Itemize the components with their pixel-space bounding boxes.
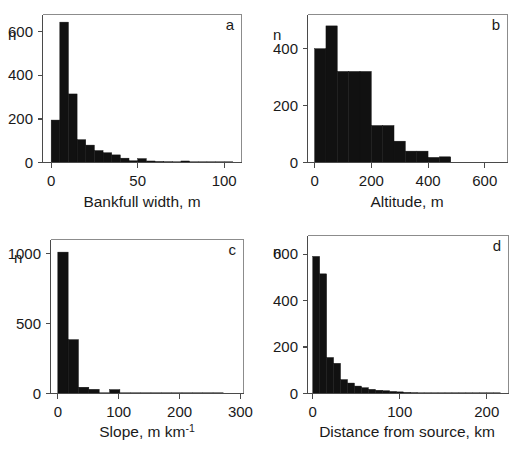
- panel-c-axes: [51, 240, 244, 394]
- y-tick-label: 500: [16, 315, 41, 332]
- y-tick-label: 0: [33, 385, 41, 402]
- histogram-bar: [320, 274, 327, 394]
- y-tick-label: 0: [290, 385, 298, 402]
- y-tick-label: 200: [8, 110, 33, 127]
- histogram-bar: [313, 256, 320, 393]
- y-tick-label: 200: [273, 338, 298, 355]
- panel-b: 0200400 0200400600 n b Altitude, m: [257, 0, 514, 224]
- panel-c-x-axis-title: Slope, m km-1: [99, 422, 195, 440]
- histogram-bar: [112, 155, 121, 163]
- histogram-figure: 0200400600 050100 n a Bankfull width, m …: [0, 0, 514, 449]
- y-tick-label: 1000: [8, 245, 41, 262]
- panel-a-x-ticks: 050100: [47, 163, 237, 190]
- histogram-bar: [360, 71, 371, 162]
- histogram-bar: [94, 151, 103, 163]
- x-tick-label: 600: [472, 172, 497, 189]
- histogram-bar: [334, 363, 341, 393]
- x-tick-label: 0: [47, 172, 55, 189]
- panel-c-frame: [51, 240, 244, 394]
- panel-a-tag: a: [226, 16, 235, 33]
- histogram-bar: [368, 389, 375, 393]
- panel-c-x-ticks: 0100200300: [54, 394, 253, 421]
- histogram-bar: [349, 71, 360, 162]
- histogram-bar: [79, 387, 89, 393]
- panel-a-y-ticks: 0200400600: [8, 23, 43, 171]
- panel-c-tag: c: [229, 241, 237, 258]
- panel-d-x-ticks: 0100200: [309, 394, 500, 421]
- x-tick-label: 50: [129, 172, 146, 189]
- histogram-bar: [138, 159, 147, 163]
- panel-d-y-axis-name: n: [273, 243, 281, 260]
- histogram-bar: [354, 386, 361, 393]
- x-tick-label: 300: [228, 403, 253, 420]
- x-tick-label: 0: [309, 403, 317, 420]
- histogram-bar: [103, 153, 112, 163]
- histogram-bar: [120, 158, 129, 162]
- histogram-bar: [110, 390, 120, 394]
- y-tick-label: 0: [290, 154, 298, 171]
- histogram-bar: [405, 151, 416, 162]
- panel-d-x-axis-title: Distance from source, km: [319, 423, 495, 440]
- panel-d-plot: 0200400600 0100200 n d Distance from sou…: [257, 225, 514, 449]
- panel-b-plot: 0200400 0200400600 n b Altitude, m: [257, 0, 514, 224]
- histogram-bar: [89, 389, 99, 393]
- histogram-bar: [77, 140, 86, 163]
- y-tick-label: 200: [273, 97, 298, 114]
- x-tick-label: 400: [416, 172, 441, 189]
- x-tick-label: 0: [310, 172, 318, 189]
- histogram-bar: [337, 71, 348, 162]
- panel-b-x-axis-title: Altitude, m: [370, 193, 443, 210]
- panel-a-bars: [51, 22, 233, 162]
- histogram-bar: [348, 383, 355, 393]
- histogram-bar: [383, 126, 394, 163]
- panel-b-y-axis-name: n: [273, 26, 281, 43]
- panel-a-y-axis-name: n: [8, 26, 16, 43]
- panel-c-y-ticks: 05001000: [8, 245, 51, 402]
- panel-a-plot: 0200400600 050100 n a Bankfull width, m: [0, 0, 257, 224]
- x-tick-label: 0: [54, 403, 62, 420]
- x-tick-label: 100: [106, 403, 131, 420]
- histogram-bar: [60, 22, 69, 162]
- panel-d-bars: [313, 256, 501, 393]
- histogram-bar: [439, 157, 450, 163]
- histogram-bar: [417, 151, 428, 162]
- panel-a: 0200400600 050100 n a Bankfull width, m: [0, 0, 257, 224]
- panel-c-plot: 05001000 0100200300 n c Slope, m km-1: [0, 225, 257, 449]
- histogram-bar: [394, 141, 405, 162]
- y-tick-label: 400: [8, 66, 33, 83]
- x-tick-label: 200: [167, 403, 192, 420]
- panel-d-y-ticks: 0200400600: [273, 245, 308, 401]
- y-tick-label: 400: [273, 292, 298, 309]
- panel-d: 0200400600 0100200 n d Distance from sou…: [257, 225, 514, 449]
- x-tick-label: 100: [212, 172, 237, 189]
- histogram-bar: [68, 340, 78, 394]
- panel-d-tag: d: [493, 237, 501, 254]
- histogram-bar: [326, 26, 337, 163]
- panel-b-bars: [315, 26, 451, 163]
- panel-c-x-axis-title-main: Slope, m km: [99, 423, 185, 440]
- x-tick-label: 200: [474, 403, 499, 420]
- panel-a-x-axis-title: Bankfull width, m: [83, 193, 200, 210]
- panel-c-x-axis-title-exponent: -1: [185, 422, 194, 434]
- histogram-bar: [68, 94, 77, 163]
- histogram-bar: [315, 49, 326, 163]
- panel-c: 05001000 0100200300 n c Slope, m km-1: [0, 225, 257, 449]
- histogram-bar: [58, 252, 68, 393]
- histogram-bar: [428, 157, 439, 162]
- histogram-bar: [51, 120, 60, 162]
- x-tick-label: 100: [387, 403, 412, 420]
- panel-c-y-axis-name: n: [14, 249, 22, 266]
- x-tick-label: 200: [359, 172, 384, 189]
- histogram-bar: [86, 145, 95, 162]
- histogram-bar: [371, 126, 382, 163]
- panel-c-bars: [58, 252, 224, 393]
- histogram-bar: [341, 380, 348, 394]
- panel-b-tag: b: [492, 16, 500, 33]
- histogram-bar: [361, 388, 368, 394]
- panel-b-y-ticks: 0200400: [273, 40, 308, 171]
- histogram-bar: [327, 357, 334, 393]
- panel-b-x-ticks: 0200400600: [310, 163, 497, 190]
- y-tick-label: 0: [25, 154, 33, 171]
